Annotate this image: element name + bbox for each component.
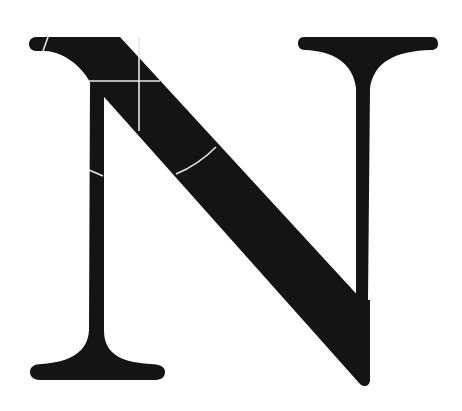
letter-n-figure	[0, 0, 462, 411]
glyph-n-drawing	[0, 0, 462, 411]
diagonal-stroke	[29, 37, 370, 386]
